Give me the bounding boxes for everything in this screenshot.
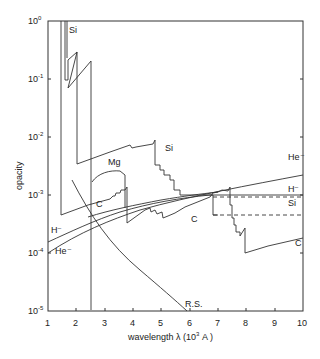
label-he-left: He⁻ — [55, 246, 72, 256]
curve-he-minus — [48, 175, 303, 253]
svg-text:10-3: 10-3 — [28, 189, 44, 200]
curve-si — [65, 21, 210, 195]
label-he-right: He⁻ — [288, 152, 305, 162]
y-axis-title: opacity — [14, 161, 24, 190]
label-c-left: C — [96, 199, 103, 209]
label-si-right: Si — [288, 198, 296, 208]
svg-text:10-1: 10-1 — [28, 73, 44, 84]
svg-text:10-5: 10-5 — [28, 305, 44, 316]
svg-text:10: 10 — [297, 318, 307, 328]
svg-text:7: 7 — [215, 318, 220, 328]
curve-si-right-step — [210, 195, 218, 215]
svg-text:9: 9 — [272, 318, 277, 328]
svg-text:4: 4 — [130, 318, 135, 328]
label-mg: Mg — [108, 157, 121, 167]
svg-text:8: 8 — [243, 318, 248, 328]
svg-text:3: 3 — [102, 318, 107, 328]
label-si-mid: Si — [165, 143, 173, 153]
label-si-top: Si — [69, 25, 77, 35]
label-c-right: C — [295, 238, 302, 248]
svg-text:5: 5 — [158, 318, 163, 328]
x-axis-title: wavelength λ (103 A ) — [127, 331, 213, 342]
svg-text:10-4: 10-4 — [28, 247, 44, 258]
svg-text:100: 100 — [28, 15, 42, 26]
curve-h-minus — [48, 195, 303, 242]
label-h-left: H⁻ — [51, 225, 63, 235]
plot-frame — [48, 21, 303, 311]
label-c-mid: C — [191, 214, 198, 224]
x-tick-labels: 1 2 3 4 5 6 7 8 9 10 — [45, 318, 307, 328]
curve-c — [61, 21, 303, 253]
label-rs: R.S. — [185, 299, 203, 309]
y-axis-ticks — [48, 79, 303, 253]
y-tick-labels: 100 10-1 10-2 10-3 10-4 10-5 — [28, 15, 44, 316]
opacity-chart: 100 10-1 10-2 10-3 10-4 10-5 1 2 3 4 5 6… — [0, 0, 320, 359]
svg-text:10-2: 10-2 — [28, 131, 44, 142]
label-h-right: H⁻ — [288, 184, 300, 194]
svg-text:1: 1 — [45, 318, 50, 328]
curve-rayleigh-scattering — [72, 180, 187, 311]
svg-text:6: 6 — [187, 318, 192, 328]
curve-si-secondary — [67, 21, 91, 310]
svg-text:2: 2 — [73, 318, 78, 328]
